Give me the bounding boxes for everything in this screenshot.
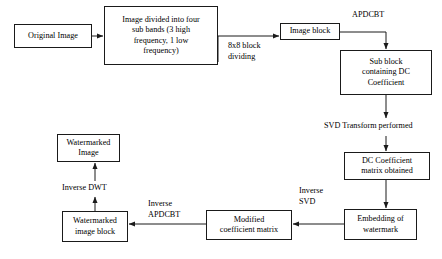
node-sub-block-dc: Sub block containing DC Coefficient bbox=[340, 50, 432, 95]
node-watermarked-image-block: Watermarked image block bbox=[62, 211, 128, 242]
node-embedding-of-watermark: Embedding of watermark bbox=[344, 209, 417, 240]
edge-label-apdcbt: APDCBT bbox=[352, 10, 384, 21]
node-original-image: Original Image bbox=[14, 24, 92, 48]
edge-label-inverse-dwt: Inverse DWT bbox=[62, 183, 107, 194]
node-image-block: Image block bbox=[280, 23, 340, 40]
edge-label-inverse-apdcbt: Inverse APDCBT bbox=[148, 199, 180, 220]
edge-label-inverse-svd: Inverse SVD bbox=[299, 186, 323, 207]
node-watermarked-image: Watermarked Image bbox=[57, 134, 120, 162]
flowchart-diagram: Original Image Image divided into four s… bbox=[0, 0, 442, 259]
edge-label-block-dividing: 8x8 block dividing bbox=[228, 41, 261, 62]
edge-imageblock-to-subblock bbox=[340, 32, 386, 49]
node-modified-coefficient-matrix: Modified coefficient matrix bbox=[206, 210, 292, 240]
edge-label-svd-transform: SVD Transform performed bbox=[324, 121, 413, 132]
node-dc-coefficient-matrix: DC Coefficient matrix obtained bbox=[344, 152, 430, 180]
node-sub-bands: Image divided into four sub bands (3 hig… bbox=[104, 6, 218, 65]
